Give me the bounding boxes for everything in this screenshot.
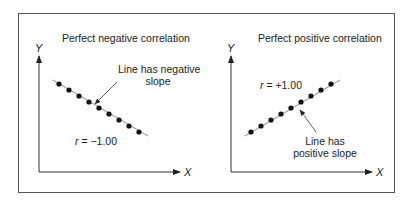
left-r-value: r = −1.00 [75, 135, 117, 147]
correlation-diagram [0, 0, 415, 204]
right-annotation: Line has positive slope [290, 135, 360, 159]
left-title: Perfect negative correlation [62, 32, 190, 44]
annotation-line-1: Line has [290, 135, 360, 147]
annotation-line-2: slope [118, 75, 198, 87]
left-annotation: Line has negative slope [118, 63, 198, 87]
data-points [56, 81, 141, 134]
r-number: = −1.00 [79, 135, 118, 147]
annotation-arrow [95, 82, 117, 104]
right-title: Perfect positive correlation [258, 32, 382, 44]
right-x-axis-label: X [376, 166, 383, 178]
left-y-axis-label: Y [35, 42, 42, 54]
annotation-line-1: Line has negative [118, 63, 198, 75]
r-number: = +1.00 [264, 79, 303, 91]
right-y-axis-label: Y [227, 42, 234, 54]
right-r-value: r = +1.00 [260, 79, 302, 91]
annotation-line-2: positive slope [290, 147, 360, 159]
annotation-arrow [300, 110, 316, 132]
left-x-axis-label: X [184, 166, 191, 178]
